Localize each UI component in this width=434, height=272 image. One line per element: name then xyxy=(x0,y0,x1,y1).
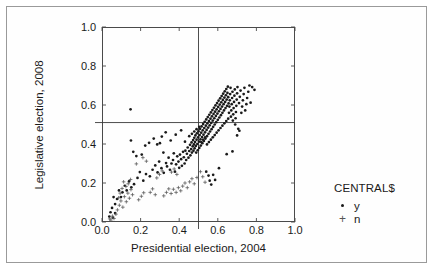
y-tick-label: 0.6 xyxy=(66,99,96,111)
dot-marker-icon xyxy=(336,204,349,207)
y-tick-label: 1.0 xyxy=(66,21,96,33)
x-tick-label: 0.4 xyxy=(172,224,187,236)
plus-marker-icon: + xyxy=(336,213,349,225)
legend-entries: y+n xyxy=(334,199,420,225)
x-axis-title: Presidential election, 2004 xyxy=(102,242,295,254)
scatter-chart: 0.00.20.40.60.81.0 0.00.20.40.60.81.0 Pr… xyxy=(0,0,434,272)
legend-entry-label: n xyxy=(354,213,360,225)
x-tick-label: 0.2 xyxy=(133,224,148,236)
legend: CENTRAL$ y+n xyxy=(334,182,420,225)
y-axis-title: Legislative election, 2008 xyxy=(32,27,46,222)
legend-entry-label: y xyxy=(354,200,360,212)
legend-title: CENTRAL$ xyxy=(334,182,420,194)
series-n xyxy=(108,156,207,222)
y-tick-label: 0.8 xyxy=(66,60,96,72)
y-axis-title-text: Legislative election, 2008 xyxy=(33,60,45,189)
x-tick-label: 1.0 xyxy=(288,224,303,236)
legend-entry-y: y xyxy=(336,199,420,212)
y-tick-label: 0.2 xyxy=(66,177,96,189)
x-tick-label: 0.8 xyxy=(249,224,264,236)
plot-canvas xyxy=(102,27,295,222)
y-tick-label: 0.4 xyxy=(66,138,96,150)
x-tick-label: 0.0 xyxy=(95,224,110,236)
series-y xyxy=(108,84,256,219)
legend-entry-n: +n xyxy=(336,212,420,225)
y-tick-label: 0.0 xyxy=(66,216,96,228)
x-tick-label: 0.6 xyxy=(210,224,225,236)
